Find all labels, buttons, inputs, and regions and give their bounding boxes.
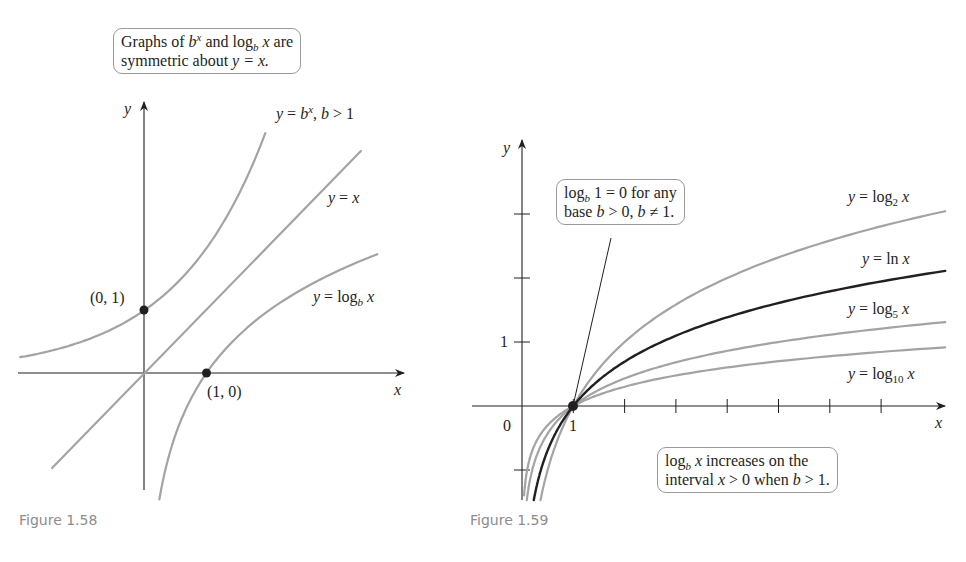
label-log10: y = log10 x — [848, 365, 915, 383]
label-point-1-0: (1, 0) — [207, 383, 242, 401]
fig59-callout-bottom: logb x increases on the interval x > 0 w… — [657, 447, 838, 493]
fig58-caption: Figure 1.58 — [19, 512, 97, 528]
tick-label-x1: 1 — [569, 417, 577, 435]
exp-curve — [20, 133, 265, 357]
fig59-callout-top: logb 1 = 0 for any base b > 0, b ≠ 1. — [556, 179, 685, 225]
fig58-x-axis-label: x — [394, 381, 401, 399]
point-0-1 — [140, 306, 149, 315]
identity-line — [52, 151, 361, 468]
label-point-0-1: (0, 1) — [90, 289, 125, 307]
point-1-0-fig59 — [568, 401, 578, 411]
fig59-caption: Figure 1.59 — [470, 512, 548, 528]
label-exp-curve: y = bx, b > 1 — [276, 105, 354, 123]
fig58-y-axis-label: y — [124, 100, 131, 118]
fig59-x-axis-label: x — [935, 414, 942, 432]
callout-pointer-line — [573, 238, 611, 406]
label-log2: y = log2 x — [848, 188, 909, 206]
tick-label-origin: 0 — [503, 417, 511, 435]
fig58-curves — [20, 133, 377, 499]
label-log5: y = log5 x — [848, 300, 909, 318]
label-ln: y = ln x — [862, 250, 910, 268]
label-log-curve: y = logb x — [313, 288, 374, 306]
point-1-0 — [202, 369, 211, 378]
fig59-y-axis-label: y — [503, 139, 510, 157]
tick-label-y1: 1 — [500, 333, 508, 351]
label-identity-line: y = x — [328, 189, 359, 207]
fig58-callout: Graphs of bx and logb x are symmetric ab… — [113, 28, 301, 74]
